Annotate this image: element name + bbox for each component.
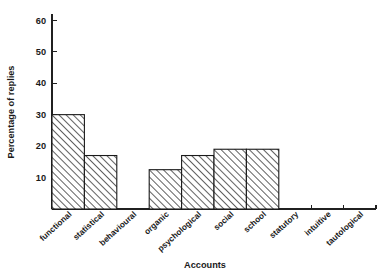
bar	[149, 170, 181, 209]
y-tick-label: 50	[36, 47, 46, 57]
x-axis-title: Accounts	[184, 260, 226, 270]
bar-chart-figure: 102030405060 functionalstatisticalbehavi…	[0, 0, 390, 275]
bar	[84, 156, 116, 209]
y-tick-label: 60	[36, 16, 46, 26]
y-axis-title: Percentage of replies	[6, 66, 16, 159]
y-tick-label: 10	[36, 173, 46, 183]
bar	[246, 149, 278, 209]
chart-container: 102030405060 functionalstatisticalbehavi…	[0, 0, 390, 275]
y-tick-label: 40	[36, 78, 46, 88]
y-tick-label: 20	[36, 141, 46, 151]
bar	[214, 149, 246, 209]
y-tick-label: 30	[36, 110, 46, 120]
bar	[182, 156, 214, 209]
bar	[52, 115, 84, 209]
